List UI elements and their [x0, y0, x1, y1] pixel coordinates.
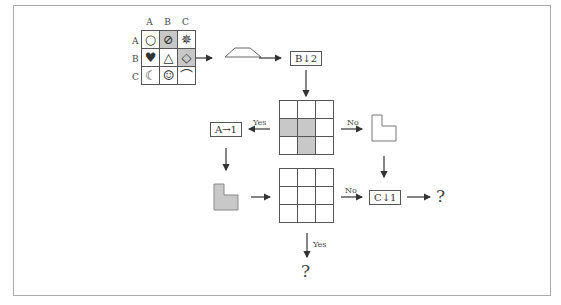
step-a-right-1: A→1	[210, 122, 242, 137]
decision-grid-top	[279, 100, 334, 155]
question-right: ?	[436, 186, 445, 206]
no-label-bottom: No	[345, 186, 357, 195]
yes-label-bottom: Yes	[313, 240, 326, 249]
step-c-down-1: C↓1	[369, 190, 401, 205]
question-bottom: ?	[301, 261, 310, 281]
no-label-top: No	[347, 118, 359, 127]
yes-label-top: Yes	[253, 118, 266, 127]
decision-grid-bottom	[279, 168, 334, 223]
step-b-down-2: B↓2	[290, 51, 322, 66]
